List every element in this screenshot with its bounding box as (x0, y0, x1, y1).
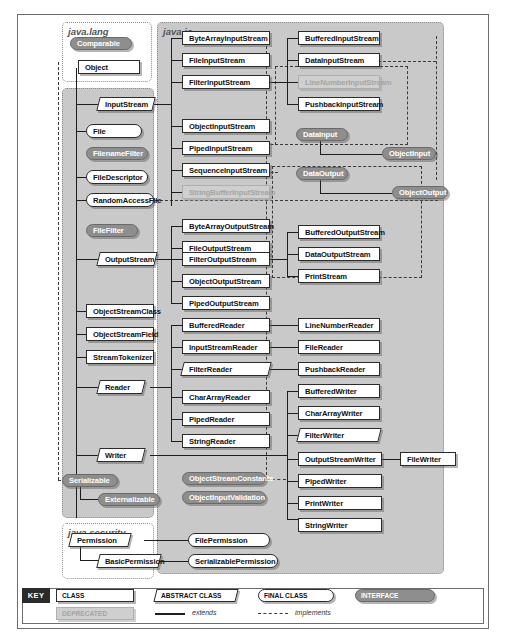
randomaccessfile-implements-line (150, 200, 438, 201)
node-bytearrayinputstream[interactable]: ByteArrayInputStream (182, 31, 270, 45)
node-outputstreamwriter[interactable]: OutputStreamWriter (298, 452, 382, 466)
node-filenamefilter[interactable]: FilenameFilter (86, 147, 148, 160)
node-writer[interactable]: Writer (96, 448, 145, 462)
line-to-dataoutputstream (287, 254, 298, 255)
line-object-spine (76, 68, 77, 518)
line-to-objectoutputstream (171, 281, 182, 282)
node-permission[interactable]: Permission (68, 533, 131, 547)
line-to-bytearrayoutputstream (171, 226, 182, 227)
key-implements-label: implements (295, 609, 331, 616)
node-pushbackinputstream[interactable]: PushbackInputStream (298, 97, 380, 111)
node-filepermission[interactable]: FilePermission (188, 533, 270, 547)
node-printstream[interactable]: PrintStream (298, 269, 380, 283)
node-inputstream[interactable]: InputStream (96, 97, 155, 111)
key-tag: KEY (22, 588, 50, 603)
node-chararrayreader[interactable]: CharArrayReader (182, 390, 270, 404)
node-filterinputstream[interactable]: FilterInputStream (182, 75, 270, 89)
node-chararraywriter[interactable]: CharArrayWriter (298, 406, 380, 420)
node-objectinputvalidation[interactable]: ObjectInputValidation (182, 491, 266, 504)
node-label-serializable: Serializable (69, 476, 110, 485)
node-label-filteroutputstream: FilterOutputStream (189, 255, 256, 264)
line-to-sequenceinputstream (171, 170, 182, 171)
node-object[interactable]: Object (78, 60, 140, 74)
node-linenumberreader[interactable]: LineNumberReader (298, 318, 380, 332)
node-label-sequenceinputstream: SequenceInputStream (189, 166, 267, 175)
line-reader-spine (171, 325, 172, 441)
node-printwriter[interactable]: PrintWriter (298, 496, 382, 510)
node-outputstream[interactable]: OutputStream (96, 252, 157, 266)
line-to-filedescriptor (76, 177, 86, 178)
node-label-datainput: DataInput (303, 130, 337, 139)
node-datainput[interactable]: DataInput (296, 128, 348, 141)
node-stringreader[interactable]: StringReader (182, 434, 270, 448)
node-filewriter[interactable]: FileWriter (400, 452, 456, 466)
node-label-filedescriptor: FileDescriptor (93, 173, 143, 182)
node-comparable[interactable]: Comparable (70, 37, 132, 50)
node-file[interactable]: File (86, 124, 142, 138)
line-dataoutput-down (320, 180, 321, 194)
node-serializablepermission[interactable]: SerializablePermission (188, 554, 278, 568)
line-reader-out (150, 387, 172, 388)
node-bufferedwriter[interactable]: BufferedWriter (298, 384, 380, 398)
node-bufferedoutputstream[interactable]: BufferedOutputStream (298, 225, 380, 239)
node-pipedinputstream[interactable]: PipedInputStream (182, 141, 270, 155)
node-objectoutputstream[interactable]: ObjectOutputStream (182, 274, 270, 288)
node-randomaccessfile[interactable]: RandomAccessFile (86, 193, 154, 207)
node-label-bytearrayinputstream: ByteArrayInputStream (189, 34, 268, 43)
node-objectinputstream[interactable]: ObjectInputStream (182, 119, 270, 133)
node-objectstreamconstants[interactable]: ObjectStreamConstants (182, 472, 266, 485)
line-to-bufferedreader (171, 325, 182, 326)
node-stringbufferinputstream[interactable]: StringBufferInputStream (182, 185, 270, 199)
line-to-filterinputstream (171, 82, 182, 83)
node-streamtokenizer[interactable]: StreamTokenizer (86, 350, 154, 364)
node-label-randomaccessfile: RandomAccessFile (93, 196, 161, 205)
node-bufferedreader[interactable]: BufferedReader (182, 318, 270, 332)
node-filereader[interactable]: FileReader (298, 340, 380, 354)
key-class-sample: CLASS (56, 589, 134, 602)
node-dataoutputstream[interactable]: DataOutputStream (298, 247, 380, 261)
node-objectinput[interactable]: ObjectInput (382, 147, 436, 160)
node-inputstreamreader[interactable]: InputStreamReader (182, 340, 270, 354)
node-pipedreader[interactable]: PipedReader (182, 412, 270, 426)
line-to-objectinputstream (171, 126, 182, 127)
node-filedescriptor[interactable]: FileDescriptor (86, 170, 148, 184)
node-filteroutputstream[interactable]: FilterOutputStream (182, 252, 270, 266)
node-pipedoutputstream[interactable]: PipedOutputStream (182, 296, 270, 310)
node-label-objectoutputstream: ObjectOutputStream (189, 277, 261, 286)
node-datainputstream[interactable]: DataInputStream (298, 53, 380, 67)
node-pushbackreader[interactable]: PushbackReader (298, 362, 380, 376)
line-inputstream-spine (171, 38, 172, 206)
node-label-bufferedreader: BufferedReader (189, 321, 245, 330)
node-objectoutput[interactable]: ObjectOutput (392, 186, 448, 199)
node-linenumberinputstream[interactable]: LineNumberInputStream (298, 75, 380, 89)
node-label-linenumberreader: LineNumberReader (305, 321, 373, 330)
node-serializable[interactable]: Serializable (62, 474, 118, 487)
node-label-fileinputstream: FileInputStream (189, 56, 245, 65)
node-reader[interactable]: Reader (96, 380, 145, 394)
node-objectstreamclass[interactable]: ObjectStreamClass (86, 304, 154, 318)
node-bytearrayoutputstream[interactable]: ByteArrayOutputStream (182, 219, 270, 233)
node-filefilter[interactable]: FileFilter (86, 224, 138, 237)
node-label-writer: Writer (105, 451, 126, 460)
line-to-objectstreamfield (76, 334, 86, 335)
node-fileinputstream[interactable]: FileInputStream (182, 53, 270, 67)
node-dataoutput[interactable]: DataOutput (296, 167, 348, 180)
node-basicpermission[interactable]: BasicPermission (96, 554, 161, 568)
node-label-bytearrayoutputstream: ByteArrayOutputStream (189, 222, 274, 231)
line-to-filterreader (171, 369, 182, 370)
node-label-filenamefilter: FilenameFilter (93, 149, 143, 158)
node-label-externalizable: Externalizable (105, 495, 155, 504)
node-label-objectinput: ObjectInput (389, 149, 430, 158)
node-pipedwriter[interactable]: PipedWriter (298, 474, 382, 488)
line-to-outputstreamwriter (287, 459, 298, 460)
node-filterwriter[interactable]: FilterWriter (296, 428, 381, 442)
key-class-label: CLASS (62, 592, 84, 599)
node-filterreader[interactable]: FilterReader (180, 362, 271, 376)
node-label-objectstreamconstants: ObjectStreamConstants (189, 474, 273, 483)
node-objectstreamfield[interactable]: ObjectStreamField (86, 327, 154, 341)
line-to-objectstreamclass (76, 311, 86, 312)
node-sequenceinputstream[interactable]: SequenceInputStream (182, 163, 270, 177)
node-bufferedinputstream[interactable]: BufferedInputStream (298, 31, 380, 45)
node-stringwriter[interactable]: StringWriter (298, 518, 382, 532)
node-externalizable[interactable]: Externalizable (98, 493, 160, 506)
